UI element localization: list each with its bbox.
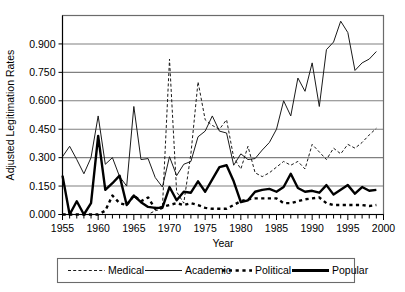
y-tick-label: 0.450 [29,123,55,135]
y-tick-label: 0.900 [29,38,55,50]
legitimation-rates-line-chart: 0.0000.1500.3000.4500.6000.7500.90019551… [0,0,405,292]
legend-label-popular: Popular [332,264,369,276]
x-tick-label: 1965 [122,222,146,234]
x-tick-label: 1985 [265,222,289,234]
x-tick-label: 1960 [86,222,110,234]
x-tick-label: 1975 [193,222,217,234]
legend-label-medical: Medical [108,264,144,276]
y-axis-title: Adjusted Legitimation Rates [4,50,16,181]
x-tick-label: 1990 [300,222,324,234]
legend-label-political: Political [255,264,291,276]
chart-container: 0.0000.1500.3000.4500.6000.7500.90019551… [0,0,405,292]
x-tick-label: 1995 [336,222,360,234]
x-axis-title: Year [212,237,234,249]
x-tick-label: 1955 [51,222,75,234]
y-tick-label: 0.000 [29,208,55,220]
x-tick-label: 1970 [158,222,182,234]
y-tick-label: 0.300 [29,151,55,163]
y-tick-label: 0.750 [29,66,55,78]
y-tick-label: 0.150 [29,180,55,192]
y-tick-label: 0.600 [29,94,55,106]
x-tick-label: 1980 [229,222,253,234]
x-tick-label: 2000 [372,222,396,234]
